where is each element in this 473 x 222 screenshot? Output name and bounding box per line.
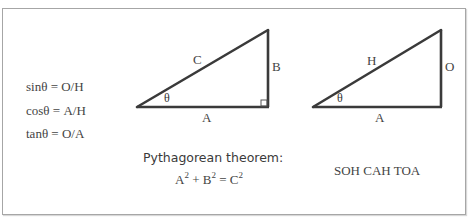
exponent-c: 2 [238,170,243,180]
triangle-pythagorean [137,30,269,107]
triangle-1-hypotenuse [137,30,268,107]
triangle-2-base-label: A [375,110,384,126]
triangle-1-hypotenuse-label: C [193,52,202,68]
triangle-2-hypotenuse [313,30,441,107]
triangle-2-angle-label: θ [337,91,343,106]
triangle-trig [313,30,442,107]
sin-formula: sinθ = O/H [26,79,84,95]
pythagorean-formula: A2 + B2 = C2 [175,172,243,188]
pythagorean-title: Pythagorean theorem: [143,150,283,165]
term-a: A [175,172,184,187]
exponent-b: 2 [211,170,216,180]
triangle-1-vertical-label: B [272,59,281,75]
triangle-2-vertical-label: O [445,59,454,75]
tan-formula: tanθ = O/A [26,126,84,142]
triangle-1-base-label: A [202,110,211,126]
exponent-a: 2 [184,170,189,180]
equals-sign: = [219,172,226,187]
mnemonic-text: SOH CAH TOA [334,163,420,179]
triangle-1-angle-label: θ [164,91,170,106]
triangle-2-hypotenuse-label: H [367,53,376,69]
right-angle-marker [261,100,267,106]
cos-formula: cosθ = A/H [26,103,86,119]
plus-sign: + [192,172,199,187]
